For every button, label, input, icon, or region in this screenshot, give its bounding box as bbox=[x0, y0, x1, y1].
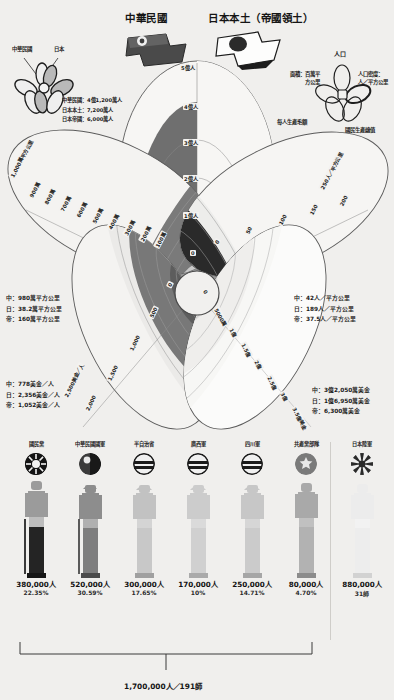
data-area-japan: 日：38.2萬平方公里 bbox=[6, 304, 62, 315]
tick-pop-5: 5億人 bbox=[180, 64, 196, 71]
data-gnp-empire: 帝：6,300萬美金 bbox=[312, 406, 370, 417]
soldier-figure-4 bbox=[235, 479, 269, 579]
army-share-5: 4.70% bbox=[278, 589, 334, 596]
striped-roundel-icon bbox=[133, 453, 155, 475]
army-label-4: 四川軍 bbox=[224, 440, 280, 447]
data-gdp-china: 中：778美金／人 bbox=[6, 379, 60, 390]
tick-pop-1: 1億人 bbox=[183, 212, 199, 219]
army-share-4: 14.71% bbox=[224, 589, 280, 596]
army-share-1: 30.59% bbox=[62, 589, 118, 596]
army-strength-section: 國民黨 380,000人 22.35% bbox=[0, 440, 394, 700]
army-count-5: 80,000人 bbox=[278, 579, 334, 589]
army-label-6: 日本陸軍 bbox=[334, 440, 390, 447]
striped-roundel-icon bbox=[241, 453, 263, 475]
data-density-china: 中：42人／平方公里 bbox=[294, 293, 356, 304]
data-gnp-japan: 日：1億6,950萬美金 bbox=[312, 396, 370, 407]
army-share-6: 31師 bbox=[334, 589, 390, 598]
page-title-japan: 日本本土（帝國領土） bbox=[208, 10, 313, 25]
army-column-6[interactable]: 日本陸軍 880,000人 31師 bbox=[334, 440, 390, 598]
data-gnp-values: 中：3億2,050萬美金 日：1億6,950萬美金 帝：6,300萬美金 bbox=[312, 385, 370, 417]
data-area-empire: 帝：160萬平方公里 bbox=[6, 314, 62, 325]
army-share-3: 10% bbox=[170, 589, 226, 596]
tick-pop-4: 4億人 bbox=[183, 103, 199, 110]
army-column-1[interactable]: 中華民國國軍 520,000人 30.59% bbox=[62, 440, 118, 596]
kmt-sun-icon bbox=[25, 453, 47, 475]
army-column-4[interactable]: 四川軍 250,000人 14.71% bbox=[224, 440, 280, 596]
rising-sun-icon bbox=[351, 453, 373, 475]
army-column-2[interactable]: 半自治省 300,000人 17.65% bbox=[116, 440, 172, 596]
nra-roundel-icon bbox=[79, 453, 101, 475]
army-count-6: 880,000人 bbox=[334, 579, 390, 589]
data-gdp-empire: 帝：1,052美金／人 bbox=[6, 400, 60, 411]
data-density-values: 中：42人／平方公里 日：189人／平方公里 帝：37.5人／平方公里 bbox=[294, 293, 356, 325]
army-label-2: 半自治省 bbox=[116, 440, 172, 447]
infographic-root: 中華民國 日本本土（帝國領土） 中華民國 日本 bbox=[0, 0, 394, 700]
army-count-0: 380,000人 bbox=[8, 579, 64, 589]
army-share-2: 17.65% bbox=[116, 589, 172, 596]
data-gdp-japan: 日：2,356美金／人 bbox=[6, 390, 60, 401]
data-area-values: 中：980萬平方公里 日：38.2萬平方公里 帝：160萬平方公里 bbox=[6, 293, 62, 325]
army-count-3: 170,000人 bbox=[170, 579, 226, 589]
soldier-figure-5 bbox=[289, 479, 323, 579]
soldier-figure-0 bbox=[19, 479, 53, 579]
data-area-china: 中：980萬平方公里 bbox=[6, 293, 62, 304]
army-label-3: 廣西軍 bbox=[170, 440, 226, 447]
tick-pop-0: 0 bbox=[190, 250, 196, 256]
army-column-3[interactable]: 廣西軍 170,000人 10% bbox=[170, 440, 226, 596]
tick-pop-2: 2億人 bbox=[183, 175, 199, 182]
soldier-figure-6 bbox=[345, 479, 379, 579]
army-share-0: 22.35% bbox=[8, 589, 64, 596]
army-count-1: 520,000人 bbox=[62, 579, 118, 589]
petal-chart bbox=[8, 55, 386, 435]
striped-roundel-icon bbox=[187, 453, 209, 475]
data-density-japan: 日：189人／平方公里 bbox=[294, 304, 356, 315]
army-label-5: 共產黨部隊 bbox=[278, 440, 334, 447]
army-count-2: 300,000人 bbox=[116, 579, 172, 589]
army-label-0: 國民黨 bbox=[8, 440, 64, 447]
page-title-roc: 中華民國 bbox=[125, 10, 167, 25]
army-count-4: 250,000人 bbox=[224, 579, 280, 589]
army-label-1: 中華民國國軍 bbox=[62, 440, 118, 447]
data-gdp-values: 中：778美金／人 日：2,356美金／人 帝：1,052美金／人 bbox=[6, 379, 60, 411]
soldier-figure-1 bbox=[73, 479, 107, 579]
data-gnp-china: 中：3億2,050萬美金 bbox=[312, 385, 370, 396]
army-column-0[interactable]: 國民黨 380,000人 22.35% bbox=[8, 440, 64, 596]
soldier-figure-3 bbox=[181, 479, 215, 579]
army-column-5[interactable]: 共產黨部隊 80,000人 4.70% bbox=[278, 440, 334, 596]
data-density-empire: 帝：37.5人／平方公里 bbox=[294, 314, 356, 325]
ccp-star-icon bbox=[295, 453, 317, 475]
soldier-figure-2 bbox=[127, 479, 161, 579]
army-total-label: 1,700,000人／191師 bbox=[124, 680, 202, 691]
tick-pop-3: 3億人 bbox=[183, 139, 199, 146]
